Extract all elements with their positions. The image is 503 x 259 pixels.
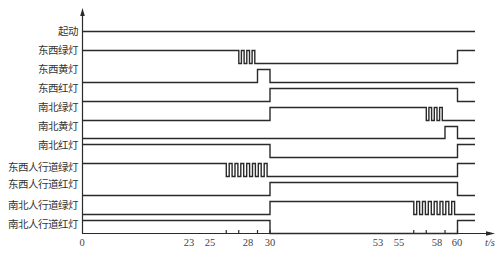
- waveform-7: [83, 164, 476, 177]
- signal-label-ns-yellow: 南北黄灯: [38, 120, 79, 132]
- signal-label-start: 起动: [58, 25, 78, 37]
- signal-label-ew-red: 东西红灯: [38, 82, 79, 94]
- tick-label-58: 58: [432, 237, 443, 248]
- waveforms: [83, 32, 476, 234]
- tick-label-28: 28: [243, 237, 254, 248]
- tick-label-53: 53: [373, 237, 384, 248]
- signal-labels: 起动 东西绿灯 东西黄灯 东西红灯 南北绿灯 南北黄灯 南北红灯 东西人行道绿灯…: [8, 25, 79, 230]
- waveform-3: [83, 89, 476, 102]
- y-axis-arrow-icon: [80, 8, 85, 16]
- signal-label-ns-red: 南北红灯: [38, 139, 79, 151]
- timing-diagram: 起动 东西绿灯 东西黄灯 东西红灯 南北绿灯 南北黄灯 南北红灯 东西人行道绿灯…: [0, 0, 503, 259]
- signal-label-ew-ped-green: 东西人行道绿灯: [8, 161, 79, 173]
- waveform-9: [83, 202, 476, 215]
- x-axis-tick-labels: 0 23 25 28 30 53 55 58 60 t/s: [79, 237, 495, 248]
- signal-label-ns-ped-green: 南北人行道绿灯: [8, 199, 79, 211]
- signal-label-ew-green: 东西绿灯: [38, 44, 79, 56]
- waveform-10: [83, 221, 476, 234]
- signal-label-ns-ped-red: 南北人行道红灯: [8, 218, 79, 230]
- signal-label-ns-green: 南北绿灯: [38, 101, 79, 113]
- x-axis-unit: t/s: [485, 237, 495, 248]
- waveform-1: [83, 51, 476, 64]
- waveform-8: [83, 183, 476, 196]
- tick-label-55: 55: [394, 237, 405, 248]
- tick-label-0: 0: [79, 237, 84, 248]
- signal-label-ew-yellow: 东西黄灯: [38, 63, 79, 75]
- tick-label-23: 23: [184, 237, 195, 248]
- tick-label-60: 60: [452, 237, 463, 248]
- signal-label-ew-ped-red: 东西人行道红灯: [8, 178, 79, 190]
- tick-label-30: 30: [265, 237, 276, 248]
- waveform-5: [83, 127, 476, 139]
- tick-label-25: 25: [205, 237, 216, 248]
- waveform-4: [83, 108, 476, 121]
- x-axis-arrow-icon: [486, 231, 495, 235]
- waveform-2: [83, 70, 476, 83]
- waveform-6: [83, 145, 476, 158]
